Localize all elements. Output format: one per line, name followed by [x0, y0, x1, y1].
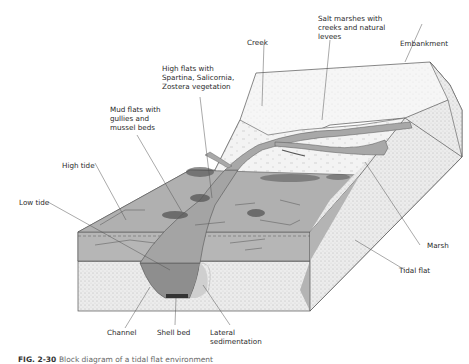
caption-text: Block diagram of a tidal flat environmen…	[59, 355, 213, 364]
label-marsh: Marsh	[427, 241, 449, 250]
shell-bed-deposit	[166, 294, 188, 298]
label-shell-bed: Shell bed	[157, 328, 190, 337]
label-high-flats: High flats with Spartina, Salicornia, Zo…	[162, 64, 234, 91]
label-salt-marshes: Salt marshes with creeks and natural lev…	[318, 14, 385, 41]
label-lateral-sedimentation: Lateral sedimentation	[210, 328, 262, 346]
label-embankment: Embankment	[400, 39, 448, 48]
label-tidal-flat: Tidal flat	[399, 266, 430, 275]
caption-number: FIG. 2-30	[18, 355, 56, 364]
figure-caption: FIG. 2-30 Block diagram of a tidal flat …	[18, 355, 213, 364]
label-low-tide: Low tide	[19, 198, 49, 207]
tidal-flat-block-diagram	[0, 0, 469, 364]
label-mud-flats: Mud flats with gullies and mussel beds	[110, 105, 161, 132]
label-high-tide: High tide	[62, 161, 95, 170]
label-channel: Channel	[107, 328, 137, 337]
label-creek: Creek	[247, 38, 268, 47]
